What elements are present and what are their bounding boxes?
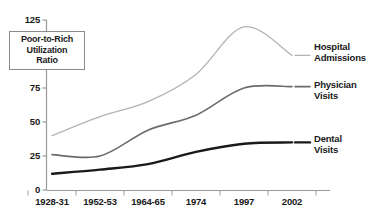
legend-leader-lines — [295, 55, 310, 142]
legend-dental-line-1: Dental — [314, 133, 342, 144]
legend-hospital-line-1: Hospital — [314, 41, 366, 52]
y-tick-label-75: 75 — [6, 82, 40, 93]
y-tick-label-125: 125 — [6, 14, 40, 25]
y-axis-title-line-2: Utilization — [12, 45, 82, 56]
legend-physician-line-2: Visits — [314, 90, 357, 101]
y-axis-title-box: Poor-to-Rich Utilization Ratio — [9, 31, 85, 70]
legend-physician-line-1: Physician — [314, 79, 357, 90]
y-axis-title-line-1: Poor-to-Rich — [12, 34, 82, 45]
x-tick-label-2002: 2002 — [262, 196, 322, 207]
chart-container: 125 75 50 25 0 Poor-to-Rich Utilization … — [0, 0, 380, 219]
y-axis-title-line-3: Ratio — [12, 55, 82, 66]
y-tick-label-25: 25 — [6, 150, 40, 161]
x-axis-ticks — [28, 191, 316, 196]
legend-dental-line-2: Visits — [314, 144, 342, 155]
series-line — [52, 27, 292, 136]
y-tick-label-50: 50 — [6, 116, 40, 127]
legend-label-dental-visits: Dental Visits — [314, 133, 342, 155]
legend-label-physician-visits: Physician Visits — [314, 79, 357, 101]
y-tick-label-0: 0 — [6, 184, 40, 195]
legend-label-hospital-admissions: Hospital Admissions — [314, 41, 366, 63]
legend-hospital-line-2: Admissions — [314, 52, 366, 63]
chart-series-lines — [52, 27, 292, 174]
